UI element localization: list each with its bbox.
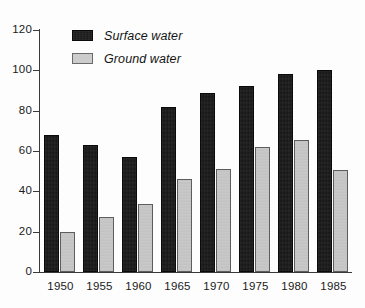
x-axis-tick-label-1980: 1980 [273, 281, 317, 293]
y-axis-tick [33, 70, 40, 71]
bar-surface-water-1950 [44, 135, 59, 272]
y-axis-tick [33, 30, 40, 31]
y-axis-tick-label: 120 [0, 24, 32, 36]
bar-ground-water-1955 [99, 217, 114, 272]
bar-surface-water-1980 [278, 74, 293, 272]
legend-swatch-ground-water-icon [72, 53, 93, 64]
y-axis-tick [33, 111, 40, 112]
legend-swatch-surface-water-icon [72, 30, 93, 41]
bar-ground-water-1975 [255, 147, 270, 272]
x-axis-tick-label-1960: 1960 [117, 281, 161, 293]
legend-label-ground-water: Ground water [104, 52, 181, 66]
x-axis-tick-label-1985: 1985 [312, 281, 356, 293]
bar-chart-figure: 020406080100120 195019551960196519701975… [0, 0, 365, 308]
y-axis-tick-label: 60 [0, 145, 32, 157]
y-axis-tick [33, 191, 40, 192]
x-axis-tick-label-1970: 1970 [195, 281, 239, 293]
legend-label-surface-water: Surface water [104, 29, 182, 43]
y-axis-tick-label: 40 [0, 185, 32, 197]
x-axis-tick-label-1950: 1950 [39, 281, 83, 293]
bar-ground-water-1960 [138, 204, 153, 272]
y-axis-tick-label: 80 [0, 105, 32, 117]
x-axis-tick-label-1955: 1955 [78, 281, 122, 293]
x-axis-tick-label-1975: 1975 [234, 281, 278, 293]
chart-legend: Surface water Ground water [72, 26, 182, 72]
bar-surface-water-1960 [122, 157, 137, 272]
bar-ground-water-1985 [333, 170, 348, 272]
bar-surface-water-1985 [317, 70, 332, 272]
bar-ground-water-1950 [60, 232, 75, 272]
y-axis-tick-label: 0 [0, 266, 32, 278]
y-axis-tick [33, 151, 40, 152]
bar-surface-water-1955 [83, 145, 98, 272]
bar-surface-water-1970 [200, 93, 215, 272]
y-axis-tick [33, 272, 40, 273]
y-axis-tick-label: 20 [0, 226, 32, 238]
y-axis-tick [33, 232, 40, 233]
bar-ground-water-1980 [294, 140, 309, 272]
x-axis-tick-label-1965: 1965 [156, 281, 200, 293]
bar-surface-water-1965 [161, 107, 176, 272]
bar-ground-water-1970 [216, 169, 231, 272]
legend-item-surface-water: Surface water [72, 26, 182, 45]
bar-ground-water-1965 [177, 179, 192, 272]
y-axis-tick-label: 100 [0, 64, 32, 76]
bar-surface-water-1975 [239, 86, 254, 272]
legend-item-ground-water: Ground water [72, 49, 182, 68]
x-axis-line [39, 272, 352, 273]
